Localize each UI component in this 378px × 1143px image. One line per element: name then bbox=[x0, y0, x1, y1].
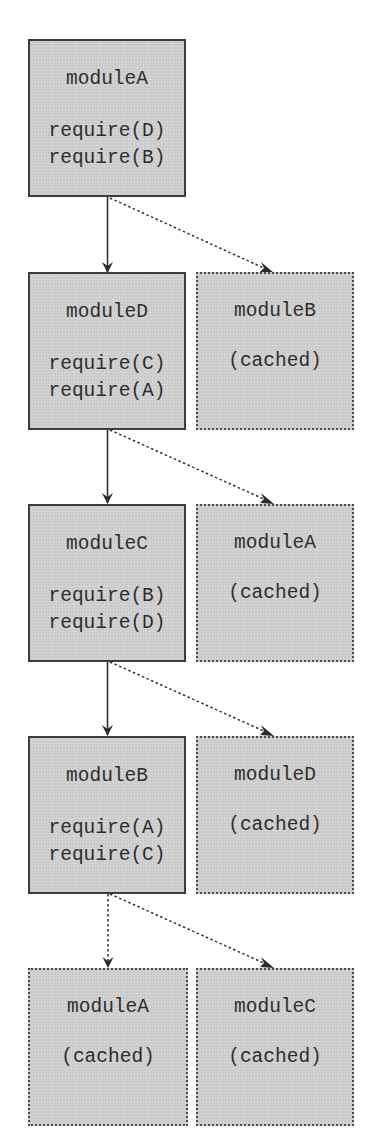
node-moduleB: moduleB require(A) require(C) bbox=[28, 736, 186, 894]
node-cached-label: (cached) bbox=[198, 349, 352, 373]
node-require-line: require(A) bbox=[30, 379, 184, 403]
node-require-line: require(C) bbox=[30, 843, 184, 867]
node-cached-label: (cached) bbox=[30, 1045, 186, 1069]
node-title: moduleA bbox=[198, 531, 352, 555]
node-title: moduleA bbox=[30, 67, 184, 91]
edge-moduleB-to-moduleC-cached bbox=[110, 894, 266, 964]
node-require-line: require(A) bbox=[30, 816, 184, 840]
node-title: moduleC bbox=[198, 995, 352, 1019]
node-title: moduleB bbox=[30, 764, 184, 788]
arrowhead-icon bbox=[260, 725, 274, 736]
node-require-line: require(D) bbox=[30, 119, 184, 143]
node-moduleC: moduleC require(B) require(D) bbox=[28, 504, 186, 662]
node-title: moduleD bbox=[198, 763, 352, 787]
node-moduleA: moduleA require(D) require(B) bbox=[28, 39, 186, 197]
edge-moduleA-to-moduleB-cached bbox=[110, 198, 266, 269]
arrowhead-icon bbox=[102, 493, 113, 504]
node-title: moduleA bbox=[30, 995, 186, 1019]
arrowhead-icon bbox=[260, 957, 274, 968]
node-moduleA-cached: moduleA (cached) bbox=[196, 504, 354, 662]
node-moduleC-cached: moduleC (cached) bbox=[196, 968, 354, 1126]
arrowhead-icon bbox=[103, 957, 114, 968]
node-title: moduleB bbox=[198, 299, 352, 323]
node-require-line: require(B) bbox=[30, 146, 184, 170]
module-require-diagram: moduleA require(D) require(B) moduleD re… bbox=[0, 0, 378, 1143]
arrowhead-icon bbox=[102, 725, 113, 736]
edge-moduleC-to-moduleD-cached bbox=[110, 662, 266, 732]
node-moduleA-cached-2: moduleA (cached) bbox=[28, 968, 188, 1126]
node-moduleD-cached: moduleD (cached) bbox=[196, 736, 354, 894]
node-moduleD: moduleD require(C) require(A) bbox=[28, 272, 186, 430]
node-require-line: require(C) bbox=[30, 352, 184, 376]
node-cached-label: (cached) bbox=[198, 581, 352, 605]
node-title: moduleD bbox=[30, 300, 184, 324]
node-require-line: require(B) bbox=[30, 584, 184, 608]
node-require-line: require(D) bbox=[30, 611, 184, 635]
edge-moduleD-to-moduleA-cached bbox=[110, 430, 266, 500]
node-moduleB-cached: moduleB (cached) bbox=[196, 272, 354, 430]
arrowhead-icon bbox=[260, 493, 274, 504]
node-title: moduleC bbox=[30, 532, 184, 556]
node-cached-label: (cached) bbox=[198, 813, 352, 837]
node-cached-label: (cached) bbox=[198, 1045, 352, 1069]
